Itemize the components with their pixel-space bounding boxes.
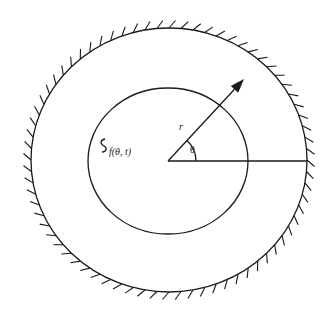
hatch-mark [30,118,36,126]
radius-label: r [179,121,183,132]
hatch-mark [258,57,268,59]
hatch-mark [71,57,72,67]
hatch-mark [238,42,247,45]
hatch-mark [24,154,32,161]
hatch-mark [40,95,44,104]
hatch-mark [80,268,90,270]
hatch-mark [62,65,64,75]
hatch-mark [125,288,133,294]
hatch-mark [248,50,258,52]
angle-theta-label: θ [190,144,195,155]
hatch-mark [205,27,213,33]
hatch-mark [181,22,188,29]
hatch-mark [267,253,268,263]
hatch-mark [113,284,122,289]
hatch-mark [137,290,145,296]
hatch-mark [163,292,170,300]
hatch-mark [216,31,225,36]
hatch-mark [169,21,176,29]
hatch-mark [289,226,292,235]
hatch-mark [307,160,315,167]
hatch-mark [307,172,314,179]
radius-vector-line [168,89,235,161]
hatch-mark [247,268,248,278]
hatch-mark [157,21,163,29]
hatch-mark [175,292,181,300]
hatch-mark [25,141,32,148]
hatch-mark [302,194,308,202]
hatch-mark [62,253,72,254]
hatch-mark [150,292,157,299]
hatch-mark [193,24,201,30]
hatch-mark [227,36,236,40]
hatch-mark [275,245,277,255]
hatch-mark [91,274,100,277]
hatch-mark [305,183,311,191]
interface-function-label: f(θ, t) [109,146,132,158]
hatch-mark [24,166,32,172]
hatch-mark [54,75,57,85]
hatch-mark [102,280,111,284]
interface-label-leader [101,139,106,152]
hatch-mark [307,149,315,155]
polar-domain-diagram: r θ f(θ, t) [0,0,335,318]
hatch-mark [267,66,277,67]
hatch-mark [299,205,304,214]
hatch-mark [35,106,40,115]
hatch-mark [282,236,285,246]
hatch-mark [46,85,49,94]
hatch-mark [90,42,91,52]
hatch-mark [294,216,298,225]
hatch-mark [71,261,81,263]
hatch-mark [27,129,33,137]
